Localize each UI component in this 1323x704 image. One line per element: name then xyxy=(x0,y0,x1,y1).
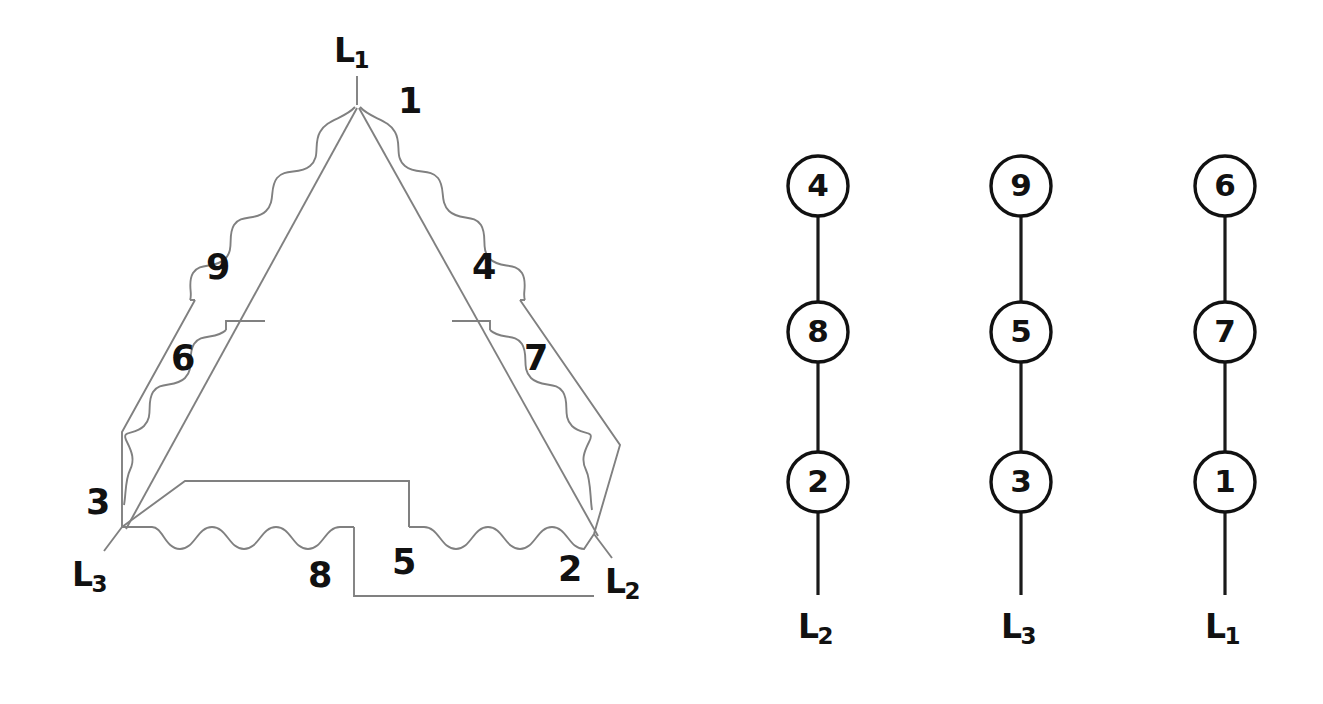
terminal-subscript: 1 xyxy=(354,47,370,73)
coil-label-1: 1 xyxy=(398,84,422,119)
lead-node-label: 1 xyxy=(1195,466,1255,497)
terminal-subscript: 3 xyxy=(1021,623,1037,649)
terminal-letter: L xyxy=(1001,607,1022,646)
coil-label-8: 8 xyxy=(308,558,332,593)
lead-node-label: 3 xyxy=(991,466,1051,497)
lead-groups-svg xyxy=(0,0,1323,704)
terminal-label-l3: L3 xyxy=(72,558,108,591)
lead-column-3 xyxy=(1195,156,1255,595)
terminal-subscript: 1 xyxy=(1225,623,1241,649)
terminal-subscript: 2 xyxy=(818,623,834,649)
lead-node-label: 6 xyxy=(1195,170,1255,201)
lead-node-label: 5 xyxy=(991,316,1051,347)
terminal-letter: L xyxy=(334,31,355,70)
coil-label-9: 9 xyxy=(206,250,230,285)
lead-node-label: 7 xyxy=(1195,316,1255,347)
lead-column-2 xyxy=(991,156,1051,595)
lead-node-label: 4 xyxy=(788,170,848,201)
terminal-letter: L xyxy=(72,555,93,594)
coil-label-3: 3 xyxy=(86,485,110,520)
terminal-letter: L xyxy=(605,562,626,601)
lead-node-label: 2 xyxy=(788,466,848,497)
terminal-label-l2: L2 xyxy=(605,565,641,598)
lead-node-label: 9 xyxy=(991,170,1051,201)
coil-label-5: 5 xyxy=(392,545,416,580)
coil-label-2: 2 xyxy=(558,552,582,587)
coil-label-4: 4 xyxy=(472,250,496,285)
terminal-subscript: 3 xyxy=(92,571,108,597)
terminal-letter: L xyxy=(1205,607,1226,646)
coil-label-6: 6 xyxy=(171,341,195,376)
terminal-label-l1: L1 xyxy=(334,34,370,67)
lead-column-1 xyxy=(788,156,848,595)
terminal-letter: L xyxy=(798,607,819,646)
diagram-canvas: 1 9 4 6 7 3 8 5 2 L1 L3 L2 4 8 2 9 5 3 6… xyxy=(0,0,1323,704)
lead-terminal-label-l2: L2 xyxy=(798,610,834,643)
terminal-subscript: 2 xyxy=(625,578,641,604)
lead-terminal-label-l1: L1 xyxy=(1205,610,1241,643)
lead-node-label: 8 xyxy=(788,316,848,347)
coil-label-7: 7 xyxy=(524,341,548,376)
lead-terminal-label-l3: L3 xyxy=(1001,610,1037,643)
